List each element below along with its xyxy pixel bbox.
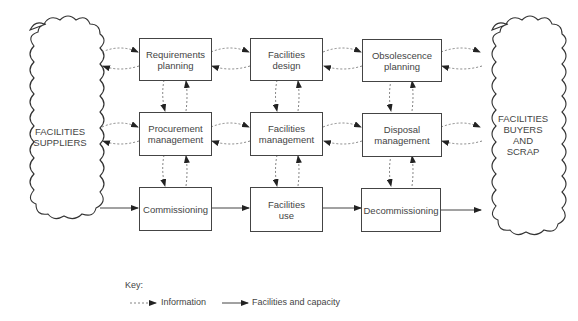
right-cloud-line-3: AND [484, 135, 562, 146]
box-line: Decommissioning [364, 205, 439, 216]
requirements-planning-box: Requirementsplanning [139, 38, 212, 81]
box-line: Commissioning [143, 204, 208, 215]
left-cloud-line-2: SUPPLIERS [22, 137, 98, 148]
disposal-management-box: Disposalmanagement [362, 113, 442, 157]
box-line: management [259, 134, 314, 145]
box-line: Procurement [148, 123, 203, 134]
right-cloud-line-4: SCRAP [484, 146, 562, 157]
procurement-management-box: Procurementmanagement [139, 112, 212, 156]
box-line: Requirements [146, 49, 205, 60]
key-information-label: Information [161, 297, 206, 307]
obsolescence-planning-box: Obsolescenceplanning [362, 39, 442, 82]
facilities-management-box: Facilitiesmanagement [250, 112, 323, 156]
right-cloud-line-2: BUYERS [484, 124, 562, 135]
facilities-use-box: Facilitiesuse [250, 187, 323, 232]
facilities-suppliers-label: FACILITIES SUPPLIERS [22, 126, 98, 148]
box-line: design [268, 60, 305, 71]
box-line: management [374, 135, 429, 146]
box-line: planning [372, 61, 432, 72]
right-cloud-line-1: FACILITIES [484, 113, 562, 124]
box-line: use [268, 210, 305, 221]
box-line: Facilities [268, 49, 305, 60]
box-line: Disposal [374, 124, 429, 135]
box-line: management [148, 134, 203, 145]
box-line: planning [146, 60, 205, 71]
box-line: Obsolescence [372, 50, 432, 61]
facilities-buyers-label: FACILITIES BUYERS AND SCRAP [484, 113, 562, 157]
left-cloud-shape [30, 16, 104, 219]
facilities-design-box: Facilitiesdesign [250, 38, 323, 81]
key-title: Key: [125, 280, 143, 290]
decommissioning-box: Decommissioning [361, 188, 441, 232]
left-cloud-line-1: FACILITIES [22, 126, 98, 137]
box-line: Facilities [259, 123, 314, 134]
box-line: Facilities [268, 199, 305, 210]
key-facilities-capacity-label: Facilities and capacity [252, 297, 340, 307]
commissioning-box: Commissioning [139, 187, 212, 231]
